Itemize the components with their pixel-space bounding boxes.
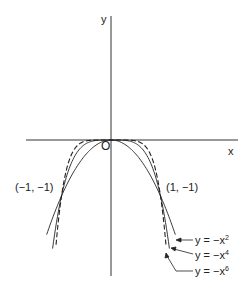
legend-x6: y = −x6 (195, 266, 229, 277)
y-axis-label: y (101, 14, 107, 25)
legend-leaders (165, 238, 193, 271)
legend-x2: y = −x2 (195, 235, 229, 246)
legend-x4: y = −x4 (195, 250, 229, 261)
origin-label: O (101, 141, 110, 152)
x-axis-label: x (228, 146, 234, 157)
point-left-label: (−1, −1) (15, 182, 54, 193)
point-right-label: (1, −1) (166, 182, 198, 193)
